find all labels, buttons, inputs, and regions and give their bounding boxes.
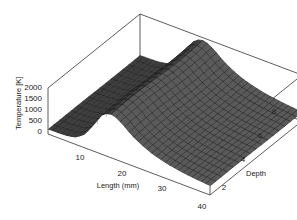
surface-skirt	[165, 163, 170, 180]
y-tick-2: 2	[222, 183, 227, 192]
z-tick-2000: 2000	[24, 83, 42, 92]
surface-plot: 0 500 1000 1500 2000 Temperature [K] 10 …	[0, 0, 297, 220]
surface-skirt	[107, 114, 112, 158]
surface-skirt	[156, 157, 161, 177]
surface-skirt	[125, 127, 130, 165]
surface-skirt	[152, 153, 157, 174]
surface-skirt	[134, 137, 139, 167]
surface-skirt	[183, 173, 188, 187]
x-tick-40: 40	[198, 202, 207, 211]
x-tick-10: 10	[76, 153, 85, 162]
x-tick-30: 30	[158, 184, 167, 193]
y-tick-6: 6	[258, 131, 263, 140]
x-tick-20: 20	[118, 169, 127, 178]
y-tick-8: 8	[272, 107, 277, 116]
surface-skirt	[179, 171, 184, 185]
z-tick-1500: 1500	[24, 94, 42, 103]
surface-skirt	[98, 115, 103, 154]
surface-skirt	[161, 160, 166, 178]
z-tick-0: 0	[38, 127, 43, 136]
surface-skirt	[111, 115, 116, 160]
surface-skirt	[188, 175, 193, 188]
y-tick-4: 4	[241, 155, 246, 164]
z-tick-500: 500	[29, 116, 43, 125]
surface-skirt	[174, 168, 179, 183]
surface-skirt	[147, 150, 152, 173]
surface-skirt	[93, 121, 98, 153]
surface-skirt	[170, 165, 175, 181]
surface-skirt	[116, 118, 121, 162]
y-axis-label: Depth	[246, 169, 266, 178]
surface-skirt	[120, 122, 125, 163]
surface-skirt	[138, 142, 143, 170]
surface-skirt	[102, 114, 107, 156]
x-axis-label: Length (mm)	[97, 181, 140, 190]
z-axis-ticks: 0 500 1000 1500 2000	[24, 83, 42, 136]
surface-skirt	[129, 132, 134, 166]
z-tick-1000: 1000	[24, 105, 42, 114]
surface-skirt	[143, 146, 148, 171]
surface-skirt	[80, 135, 85, 148]
z-axis-label: Temperature [K]	[14, 77, 23, 130]
